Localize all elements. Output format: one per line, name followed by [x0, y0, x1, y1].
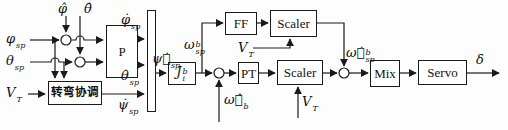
block-pt-label: PT: [241, 67, 256, 80]
block-scaler-pt-label: Scaler: [284, 66, 316, 79]
label-vt-ff: VT: [238, 41, 254, 58]
label-phi-dot-sp: φ̇sp: [121, 13, 140, 30]
sum-junction-theta: [75, 57, 85, 67]
sum-junction-omega: [214, 68, 224, 78]
block-mix-label: Mix: [374, 67, 396, 80]
label-omega-dot-vec-sp-b: ω⃗̇bsp: [346, 46, 375, 63]
block-diagram: P 转弯协调 Jbi FF Scaler PT Scaler Mix Servo…: [0, 0, 508, 130]
label-psi-dot-vec-sp: ψ⃗̇sp: [152, 52, 180, 69]
block-turn-coordination: 转弯协调: [48, 81, 102, 105]
block-pt: PT: [238, 62, 259, 84]
block-turn-coordination-label: 转弯协调: [51, 87, 99, 99]
label-phi-hat: φ̂: [58, 2, 67, 15]
label-theta-hat: θ̂: [84, 2, 92, 15]
block-ff: FF: [225, 12, 257, 35]
label-theta-sp: θsp: [6, 54, 24, 71]
block-scaler-pt: Scaler: [277, 60, 323, 85]
block-scaler-ff-label: Scaler: [277, 17, 309, 30]
label-omega-sp-b: ωbsp: [184, 38, 205, 55]
label-omega-hat-vec-b: ω⃗̂b: [224, 93, 249, 117]
label-phi-sp: φsp: [6, 32, 25, 49]
block-p-label: P: [118, 45, 125, 58]
block-servo-label: Servo: [427, 66, 457, 79]
block-mix: Mix: [370, 60, 400, 87]
label-vt-left: VT: [6, 86, 22, 103]
block-ff-label: FF: [234, 17, 248, 30]
sum-junction-phi: [61, 35, 71, 45]
label-theta-dot-sp: θ̇sp: [121, 69, 139, 86]
label-vt-pt: VT: [302, 95, 318, 112]
block-servo: Servo: [418, 60, 467, 85]
sum-junction-mix: [339, 68, 349, 78]
label-delta: δ: [476, 53, 484, 66]
label-psi-dot-sp: ψ̇sp: [118, 98, 138, 115]
block-scaler-ff: Scaler: [270, 10, 317, 37]
